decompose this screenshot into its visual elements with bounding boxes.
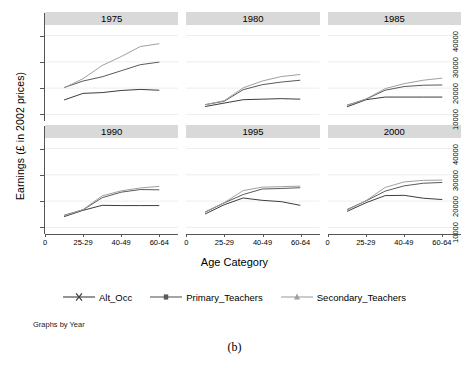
square-marker-icon	[150, 290, 182, 304]
y-tick-label-text: 40000	[451, 144, 460, 165]
series-line-Primary_Teachers	[205, 80, 300, 104]
triangle-marker-icon	[281, 290, 313, 304]
x-tick-mark	[404, 234, 405, 237]
x-tick-mark	[442, 234, 443, 237]
x-tick-mark	[121, 234, 122, 237]
series-line-Primary_Teachers	[64, 62, 159, 88]
y-axis-line	[44, 126, 45, 234]
x-tick-label: 0	[43, 238, 47, 247]
x-tick-label: 25-29	[215, 238, 234, 247]
x-tick-label: 60-64	[291, 238, 310, 247]
panel-plot-area-1990	[45, 138, 178, 234]
y-axis-ticks	[0, 12, 45, 234]
y-tick-mark	[40, 201, 44, 202]
x-tick-label: 40-49	[394, 238, 413, 247]
y-tick-label: 10000	[422, 108, 466, 126]
panel-1980: 1980	[186, 12, 319, 121]
panel-title-1990: 1990	[45, 125, 178, 138]
panel-series-svg	[45, 25, 178, 121]
panel-grid: 197519801985199019952000	[45, 12, 461, 234]
panel-title-2000: 2000	[328, 125, 461, 138]
y-tick-label-text: 20000	[451, 196, 460, 217]
y-tick-label: 30000	[422, 56, 466, 74]
x-tick-mark	[186, 234, 187, 237]
figure-caption: (b)	[0, 340, 469, 355]
legend-item-Alt_Occ[interactable]: Alt_Occ	[63, 290, 132, 304]
y-tick-label: 30000	[422, 169, 466, 187]
figure-panel-chart: Earnings (£ in 2002 prices) 197519801985…	[0, 0, 469, 368]
panel-1990: 1990	[45, 125, 178, 234]
y-tick-label: 20000	[422, 195, 466, 213]
legend-item-Primary_Teachers[interactable]: Primary_Teachers	[150, 290, 263, 304]
series-line-Primary_Teachers	[205, 188, 300, 212]
x-tick-label: 0	[184, 238, 188, 247]
y-axis-line	[44, 13, 45, 121]
panel-title-1985: 1985	[328, 12, 461, 25]
x-tick-label: 40-49	[112, 238, 131, 247]
y-tick-label: 20000	[422, 82, 466, 100]
panel-title-text: 1975	[101, 13, 122, 24]
panel-1975: 1975	[45, 12, 178, 121]
legend-label: Secondary_Teachers	[317, 292, 406, 303]
y-tick-label-text: 30000	[451, 170, 460, 191]
legend-item-Secondary_Teachers[interactable]: Secondary_Teachers	[281, 290, 406, 304]
x-tick-label: 60-64	[432, 238, 451, 247]
x-tick-mark	[159, 234, 160, 237]
panel-title-text: 1985	[384, 13, 405, 24]
y-tick-label: 40000	[422, 30, 466, 48]
y-tick-label-text: 20000	[451, 83, 460, 104]
panel-title-1980: 1980	[186, 12, 319, 25]
y-tick-mark	[40, 62, 44, 63]
panel-plot-area-1975	[45, 25, 178, 121]
panel-title-text: 1990	[101, 126, 122, 137]
y-tick-label-text: 10000	[451, 222, 460, 243]
series-line-Secondary_Teachers	[205, 74, 300, 104]
y-tick-mark	[40, 227, 44, 228]
y-tick-label: 10000	[422, 221, 466, 239]
panel-title-text: 1980	[242, 13, 263, 24]
x-axis-label: Age Category	[0, 256, 469, 268]
x-tick-label: 60-64	[150, 238, 169, 247]
series-line-Alt_Occ	[205, 198, 300, 214]
y-tick-label-text: 30000	[451, 57, 460, 78]
y-tick-label: 40000	[422, 143, 466, 161]
panel-title-1975: 1975	[45, 12, 178, 25]
legend-label: Primary_Teachers	[186, 292, 263, 303]
y-tick-mark	[40, 175, 44, 176]
y-tick-label-text: 40000	[451, 31, 460, 52]
x-tick-label: 40-49	[253, 238, 272, 247]
panel-title-text: 1995	[242, 126, 263, 137]
x-tick-mark	[83, 234, 84, 237]
series-line-Alt_Occ	[64, 89, 159, 100]
x-tick-label: 25-29	[74, 238, 93, 247]
y-tick-mark	[40, 149, 44, 150]
panel-1995: 1995	[186, 125, 319, 234]
y-tick-mark	[40, 88, 44, 89]
x-tick-label: 0	[326, 238, 330, 247]
x-tick-mark	[366, 234, 367, 237]
x-tick-mark	[328, 234, 329, 237]
x-tick-label: 25-29	[356, 238, 375, 247]
series-line-Secondary_Teachers	[64, 44, 159, 88]
series-line-Secondary_Teachers	[64, 186, 159, 215]
panel-plot-area-1995	[186, 138, 319, 234]
legend-label: Alt_Occ	[99, 292, 132, 303]
x-tick-mark	[224, 234, 225, 237]
x-tick-mark	[263, 234, 264, 237]
x-tick-mark	[301, 234, 302, 237]
panel-title-1995: 1995	[186, 125, 319, 138]
chart-legend: Alt_OccPrimary_TeachersSecondary_Teacher…	[0, 288, 469, 306]
y-tick-mark	[40, 114, 44, 115]
y-tick-label-text: 10000	[451, 109, 460, 130]
panel-title-text: 2000	[384, 126, 405, 137]
panel-plot-area-1980	[186, 25, 319, 121]
x-tick-mark	[45, 234, 46, 237]
y-tick-mark	[40, 36, 44, 37]
graphs-by-note: Graphs by Year	[33, 320, 85, 329]
x-marker-icon	[63, 290, 95, 304]
